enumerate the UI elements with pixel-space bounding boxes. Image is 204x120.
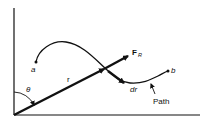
angle-arc xyxy=(14,92,34,105)
point-a-dot xyxy=(35,61,38,64)
path-curve xyxy=(36,42,168,83)
label-dr: dr xyxy=(130,85,137,94)
label-r: r xyxy=(67,75,70,84)
label-force-subscript: R xyxy=(138,52,142,58)
point-b-dot xyxy=(167,70,170,73)
label-force-f: F xyxy=(132,48,137,57)
path-pointer-arrow xyxy=(151,84,155,94)
force-vector-fr xyxy=(104,56,128,69)
label-theta: θ xyxy=(26,85,31,94)
work-path-diagram: a b r θ F R dr Path xyxy=(0,0,204,120)
label-path: Path xyxy=(153,97,169,106)
displacement-vector-dr xyxy=(108,71,124,83)
label-b: b xyxy=(171,66,176,75)
label-a: a xyxy=(31,65,36,74)
